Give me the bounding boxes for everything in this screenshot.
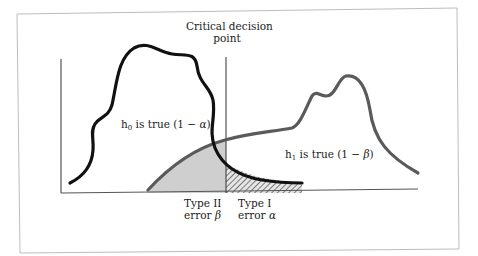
critical-label-line2: point (186, 32, 268, 44)
type1-error-region (226, 163, 302, 193)
type1-error-label: Type I error α (238, 197, 276, 221)
critical-decision-label: Critical decision point (186, 20, 268, 44)
h1-label: h1 is true (1 − β) (285, 148, 374, 160)
hypothesis-testing-diagram: Critical decision point h0 is true (1 − … (0, 0, 478, 256)
critical-label-line1: Critical decision (186, 20, 268, 32)
h0-label: h0 is true (1 − α) (121, 118, 211, 130)
type2-error-label: Type II error β (184, 197, 222, 221)
